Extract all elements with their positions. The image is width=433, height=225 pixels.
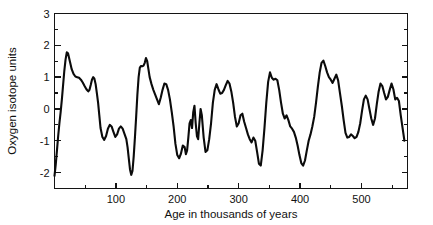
y-tick-label: 1 <box>43 71 49 83</box>
x-tick-label: 200 <box>168 193 186 205</box>
x-tick-label: 100 <box>107 193 125 205</box>
y-axis-title: Oxygen isotope units <box>6 47 18 155</box>
x-tick-label: 400 <box>291 193 309 205</box>
y-tick-label: 2 <box>43 39 49 51</box>
oxygen-isotope-line-chart: -2-10123 100200300400500 Age in thousand… <box>0 0 433 225</box>
x-axis-title: Age in thousands of years <box>165 208 298 220</box>
y-tick-label: -2 <box>40 167 50 179</box>
y-tick-label: -1 <box>40 135 50 147</box>
y-tick-label: 0 <box>43 103 49 115</box>
chart-background <box>0 0 433 225</box>
x-tick-label: 500 <box>352 193 370 205</box>
figure-container: -2-10123 100200300400500 Age in thousand… <box>0 0 433 225</box>
x-tick-label: 300 <box>229 193 247 205</box>
y-tick-label: 3 <box>43 8 49 20</box>
